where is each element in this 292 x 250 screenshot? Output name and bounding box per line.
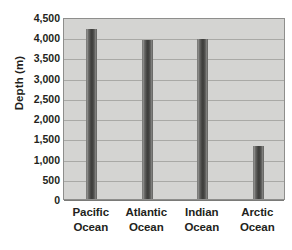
x-axis-tick-label-line1: Pacific [63,205,119,220]
x-axis-tick-label: PacificOcean [63,205,119,234]
x-axis-tick-label-line1: Arctic [230,205,286,220]
y-axis-tick-label: 4,500 [14,13,60,23]
axis-baseline [64,200,284,201]
y-axis-tick-label: 2,500 [14,94,60,104]
bar [197,39,208,199]
x-axis-tick-label: IndianOcean [174,205,230,234]
bars-group [64,19,284,199]
y-axis-tick-label: 3,500 [14,53,60,63]
bar [142,40,153,199]
x-axis-tick-label: AtlanticOcean [119,205,175,234]
plot-area [63,18,285,200]
x-axis-tick-label-line1: Atlantic [119,205,175,220]
x-axis-tick-label: ArcticOcean [230,205,286,234]
bar [253,146,264,199]
y-axis-tick-label: 3,000 [14,74,60,84]
x-axis-tick-label-line2: Ocean [230,220,286,235]
y-axis-tick-label: 0 [14,195,60,205]
bar [86,29,97,199]
y-axis-tick-label: 2,000 [14,114,60,124]
x-axis-tick-label-line2: Ocean [63,220,119,235]
y-axis-tick-label: 1,500 [14,134,60,144]
y-axis-tick-label: 4,000 [14,33,60,43]
x-axis-tick-label-line2: Ocean [174,220,230,235]
y-axis-tick-label: 500 [14,175,60,185]
bar-chart: Depth (m) 4,5004,0003,5003,0002,5002,000… [0,0,292,250]
y-axis-tick-label: 1,000 [14,155,60,165]
x-axis-tick-label-line1: Indian [174,205,230,220]
y-axis-tick-labels: 4,5004,0003,5003,0002,5002,0001,5001,000… [14,18,60,200]
x-axis-tick-label-line2: Ocean [119,220,175,235]
x-axis-tick-labels: PacificOceanAtlanticOceanIndianOceanArct… [63,205,285,247]
